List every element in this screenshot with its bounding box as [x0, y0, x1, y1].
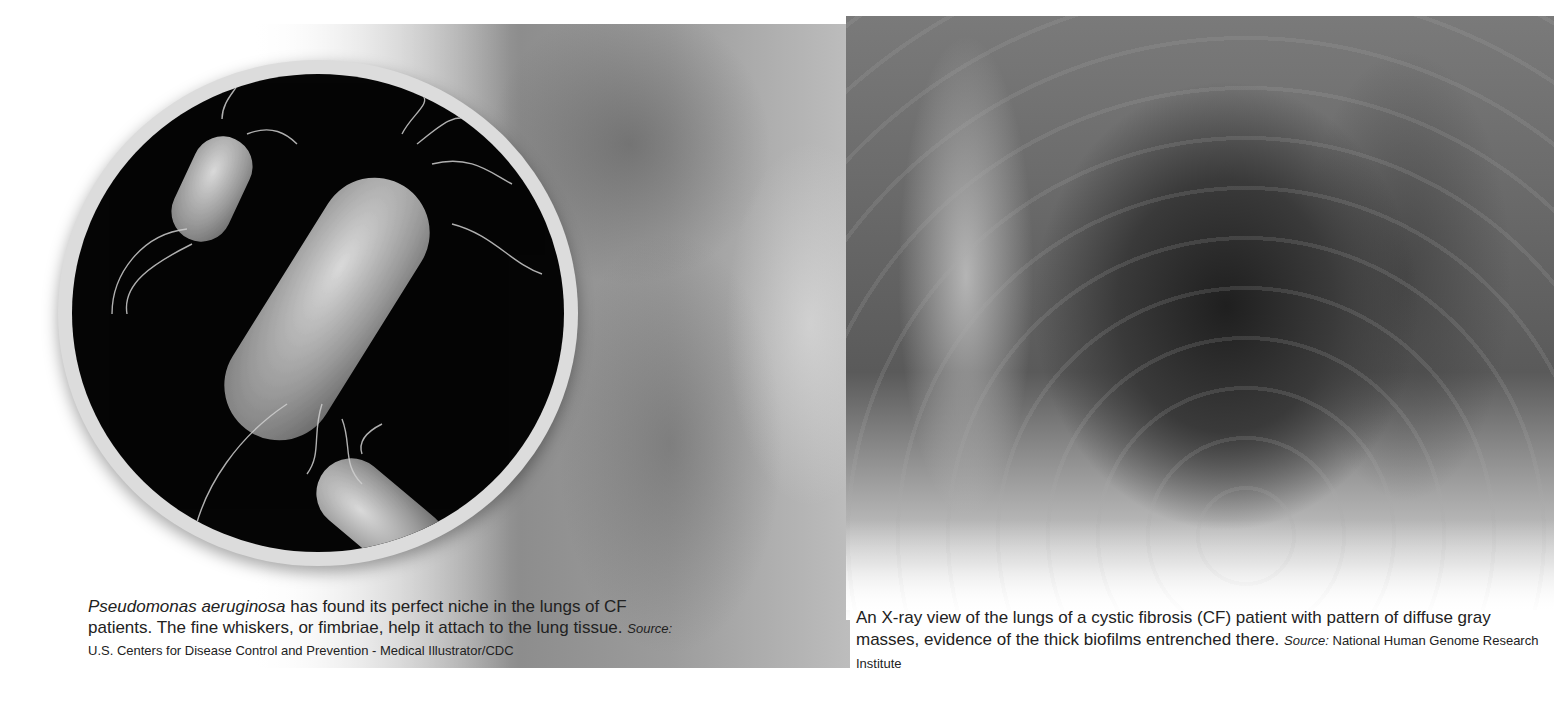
micrograph-inner — [72, 74, 564, 552]
source-label: Source: — [1284, 633, 1329, 648]
caption-right: An X-ray view of the lungs of a cystic f… — [856, 607, 1554, 675]
source-text: U.S. Centers for Disease Control and Pre… — [88, 643, 514, 658]
caption-left: Pseudomonas aeruginosa has found its per… — [88, 596, 688, 661]
fade-overlay — [846, 520, 1554, 620]
species-name: Pseudomonas aeruginosa — [88, 597, 286, 616]
source-label: Source: — [627, 621, 672, 636]
bacteria-micrograph-circle — [58, 60, 578, 566]
flagella-lines — [72, 74, 564, 552]
